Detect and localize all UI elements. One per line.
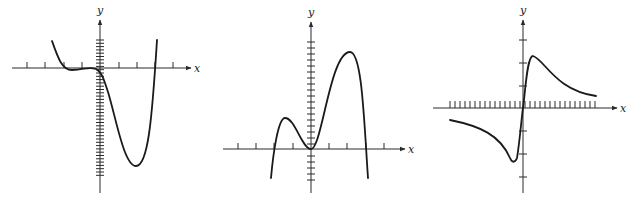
y-axis-label: y — [96, 4, 104, 17]
y-axis-label: y — [519, 4, 527, 17]
function-curve — [52, 40, 157, 166]
x-axis-label: x — [194, 62, 201, 75]
x-axis-label: x — [408, 143, 415, 156]
graph-2: x y — [223, 6, 415, 193]
graph-1: x y — [12, 4, 201, 193]
y-axis-label: y — [307, 6, 315, 19]
three-function-graphs: x y x y x y — [0, 0, 635, 209]
function-curve — [271, 52, 368, 178]
x-axis-label: x — [620, 102, 627, 115]
graph-3: x y — [433, 4, 627, 193]
